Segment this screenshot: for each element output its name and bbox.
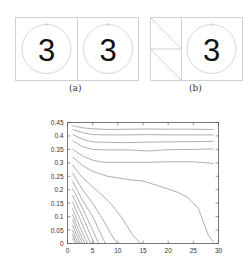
figure-canvas: 3 3 3 00.050.10.150.20.250.30.350.40.45 …	[0, 0, 249, 259]
y-tick-label: 0.35	[51, 146, 64, 153]
chart-curves	[73, 126, 214, 244]
x-tick-label: 20	[165, 247, 173, 254]
y-tick-label: 0.05	[51, 227, 64, 234]
decay-chart: 00.050.10.150.20.250.30.350.40.45 051015…	[51, 119, 223, 254]
panel-a: 3 3	[16, 18, 139, 81]
triangle-diagonal-lower	[151, 49, 182, 81]
x-tick-label: 30	[215, 247, 223, 254]
panel-b-caption: (b)	[189, 83, 202, 93]
curve-c15	[73, 220, 83, 244]
panel-b-digit: 3	[203, 33, 220, 68]
y-tick-label: 0.25	[51, 173, 64, 180]
y-tick-label: 0.3	[54, 159, 63, 166]
x-tick-label: 5	[91, 247, 95, 254]
triangle-diagonal-upper	[151, 18, 182, 50]
curve-c2	[73, 130, 214, 135]
x-tick-label: 10	[114, 247, 122, 254]
curve-c8	[73, 173, 117, 243]
x-tick-label: 15	[139, 247, 147, 254]
y-tick-label: 0.15	[51, 200, 64, 207]
curve-c6	[73, 157, 214, 242]
curve-c7	[73, 165, 141, 244]
panel-a-caption: (a)	[69, 83, 81, 93]
x-tick-label: 25	[190, 247, 198, 254]
panel-a-left-digit: 3	[38, 33, 55, 68]
panel-b: 3	[151, 18, 243, 81]
y-tick-label: 0.4	[54, 132, 63, 139]
figure: 3 3 3 00.050.10.150.20.250.30.350.40.45 …	[0, 0, 249, 259]
curve-c1	[73, 126, 214, 130]
y-tick-label: 0.45	[51, 119, 64, 126]
y-tick-label: 0.1	[54, 213, 63, 220]
curve-c3	[73, 135, 214, 143]
x-tick-label: 0	[66, 247, 70, 254]
panel-a-right-digit: 3	[99, 33, 116, 68]
y-tick-label: 0	[60, 240, 64, 247]
y-tick-label: 0.2	[54, 186, 63, 193]
